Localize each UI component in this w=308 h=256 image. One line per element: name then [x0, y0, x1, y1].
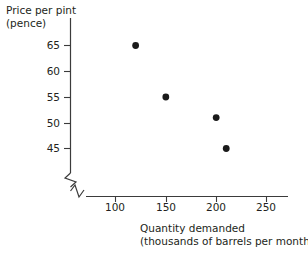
data-points: [132, 42, 229, 152]
data-point: [213, 114, 220, 121]
scatter-chart: Price per pint(pence) Quantity demanded(…: [0, 0, 308, 256]
x-axis-break-icon: [71, 185, 85, 197]
x-axis: [71, 185, 289, 202]
data-point: [132, 42, 139, 49]
data-point: [223, 145, 230, 152]
data-point: [162, 94, 169, 101]
y-axis: [64, 18, 76, 187]
plot-area: [0, 0, 308, 256]
